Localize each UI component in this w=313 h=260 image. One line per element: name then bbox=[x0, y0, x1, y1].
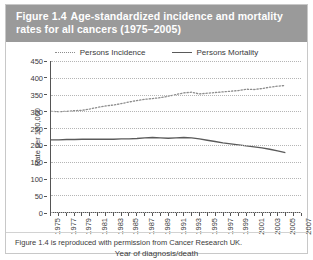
x-tick-mark bbox=[262, 213, 263, 216]
chart-legend: Persons Incidence Persons Mortality bbox=[6, 48, 307, 57]
legend-item-incidence: Persons Incidence bbox=[55, 48, 146, 57]
y-axis-ticks: 050100150200250300350400450 bbox=[20, 61, 46, 213]
x-tick-mark bbox=[277, 213, 278, 216]
legend-item-mortality: Persons Mortality bbox=[172, 48, 259, 57]
y-tick-label: 400 bbox=[30, 73, 43, 82]
plot-area bbox=[50, 61, 301, 213]
gridline bbox=[51, 128, 301, 129]
y-tick-label: 150 bbox=[30, 158, 43, 167]
x-tick-mark bbox=[207, 213, 208, 216]
y-tick-label: 100 bbox=[30, 175, 43, 184]
x-tick-mark bbox=[293, 213, 294, 216]
x-tick-mark bbox=[215, 213, 216, 216]
gridline bbox=[51, 162, 301, 163]
figure-number: Figure 1.4 bbox=[16, 10, 67, 22]
y-tick-mark bbox=[44, 61, 47, 62]
x-tick-mark bbox=[223, 213, 224, 216]
y-tick-mark bbox=[44, 196, 47, 197]
y-tick-label: 450 bbox=[30, 57, 43, 66]
x-tick-mark bbox=[66, 213, 67, 216]
y-tick-label: 0 bbox=[39, 209, 43, 218]
x-tick-mark bbox=[160, 213, 161, 216]
x-tick-mark bbox=[97, 213, 98, 216]
x-tick-mark bbox=[230, 213, 231, 216]
gridline bbox=[51, 95, 301, 96]
gridline bbox=[51, 78, 301, 79]
x-tick-mark bbox=[246, 213, 247, 216]
legend-label-mortality: Persons Mortality bbox=[197, 48, 259, 57]
y-tick-mark bbox=[44, 111, 47, 112]
y-tick-mark bbox=[44, 77, 47, 78]
x-tick-mark bbox=[199, 213, 200, 216]
gridline bbox=[51, 61, 301, 62]
x-tick-mark bbox=[285, 213, 286, 216]
x-tick-mark bbox=[50, 213, 51, 216]
legend-label-incidence: Persons Incidence bbox=[80, 48, 146, 57]
gridline bbox=[51, 145, 301, 146]
gridline bbox=[51, 178, 301, 179]
x-tick-mark bbox=[254, 213, 255, 216]
x-tick-mark bbox=[168, 213, 169, 216]
gridline bbox=[51, 111, 301, 112]
x-tick-mark bbox=[176, 213, 177, 216]
x-tick-mark bbox=[58, 213, 59, 216]
x-tick-mark bbox=[81, 213, 82, 216]
x-tick-mark bbox=[152, 213, 153, 216]
y-tick-mark bbox=[44, 94, 47, 95]
mortality-line-swatch-icon bbox=[172, 52, 192, 53]
y-tick-label: 50 bbox=[35, 192, 43, 201]
figure-source-note: Figure 1.4 is reproduced with permission… bbox=[6, 232, 307, 253]
incidence-line bbox=[51, 85, 285, 111]
y-tick-label: 250 bbox=[30, 124, 43, 133]
y-tick-label: 300 bbox=[30, 107, 43, 116]
y-tick-mark bbox=[44, 145, 47, 146]
x-tick-mark bbox=[128, 213, 129, 216]
y-tick-mark bbox=[44, 128, 47, 129]
y-tick-mark bbox=[44, 179, 47, 180]
x-tick-mark bbox=[191, 213, 192, 216]
figure-container: Figure 1.4Age-standardized incidence and… bbox=[5, 4, 308, 254]
x-tick-mark bbox=[238, 213, 239, 216]
x-tick-mark bbox=[270, 213, 271, 216]
incidence-line-swatch-icon bbox=[55, 52, 75, 53]
x-tick-mark bbox=[105, 213, 106, 216]
x-tick-mark bbox=[74, 213, 75, 216]
x-tick-mark bbox=[144, 213, 145, 216]
y-tick-mark bbox=[44, 162, 47, 163]
x-tick-mark bbox=[121, 213, 122, 216]
x-tick-mark bbox=[89, 213, 90, 216]
x-tick-mark bbox=[113, 213, 114, 216]
y-tick-label: 200 bbox=[30, 141, 43, 150]
x-tick-mark bbox=[183, 213, 184, 216]
chart-lines bbox=[51, 61, 301, 212]
y-tick-label: 350 bbox=[30, 90, 43, 99]
figure-title-bar: Figure 1.4Age-standardized incidence and… bbox=[6, 5, 307, 42]
plot-wrapper: Rate per 100,000 05010015020025030035040… bbox=[10, 61, 301, 213]
x-tick-mark bbox=[136, 213, 137, 216]
x-tick-mark bbox=[301, 213, 302, 216]
gridline bbox=[51, 195, 301, 196]
y-tick-mark bbox=[44, 213, 47, 214]
